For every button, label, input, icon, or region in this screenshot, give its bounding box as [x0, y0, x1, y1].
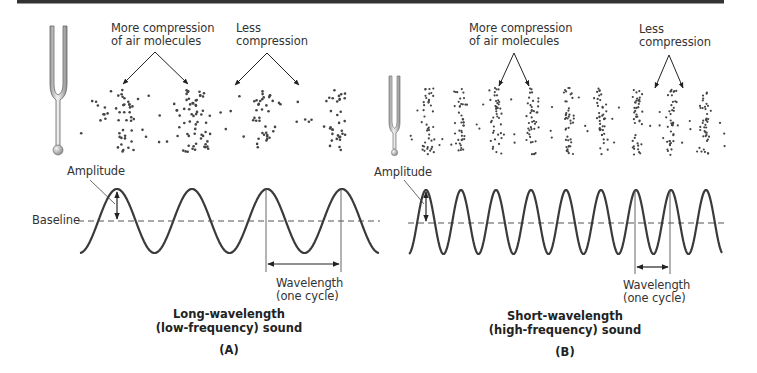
caption-b-line1: Short-wavelength	[485, 310, 645, 324]
panel-label-b: (B)	[545, 345, 585, 359]
top-rule	[17, 0, 724, 4]
wavelength-label-a-line2: (one cycle)	[276, 290, 343, 303]
amplitude-label-b: Amplitude	[374, 166, 432, 179]
amplitude-label-a: Amplitude	[67, 165, 125, 178]
baseline-label: Baseline	[32, 214, 80, 227]
sound-wave-figure: More compression of air molecules Less c…	[0, 0, 757, 373]
wavelength-label-b: Wavelength (one cycle)	[623, 279, 690, 305]
rarefaction-label-a-line2: compression	[236, 35, 308, 48]
caption-b-line2: (high-frequency) sound	[485, 324, 645, 338]
wavelength-label-b-line2: (one cycle)	[623, 292, 690, 305]
wavelength-label-a: Wavelength (one cycle)	[276, 277, 343, 303]
compression-label-b: More compression of air molecules	[469, 22, 572, 48]
tuning-fork-icon-b	[389, 76, 400, 156]
caption-b: Short-wavelength (high-frequency) sound	[485, 310, 645, 337]
air-molecules-a	[80, 89, 347, 153]
rarefaction-label-b-line2: compression	[639, 36, 711, 49]
amplitude-indicator-b	[404, 180, 426, 221]
compression-label-a-line2: of air molecules	[111, 35, 214, 48]
compression-label-b-line2: of air molecules	[469, 35, 572, 48]
tuning-fork-icon-a	[50, 26, 67, 155]
compression-label-a: More compression of air molecules	[111, 22, 214, 48]
air-molecules-b	[410, 87, 726, 156]
panel-label-a: (A)	[209, 343, 249, 357]
rarefaction-label-a: Less compression	[236, 22, 308, 48]
compression-arrows-b	[499, 53, 683, 88]
caption-a-line1: Long-wavelength	[149, 308, 309, 322]
rarefaction-label-b: Less compression	[639, 23, 711, 49]
caption-a: Long-wavelength (low-frequency) sound	[149, 308, 309, 335]
sine-wave-b	[409, 190, 722, 254]
compression-arrows-a	[123, 52, 299, 85]
caption-a-line2: (low-frequency) sound	[149, 322, 309, 336]
amplitude-indicator-a	[90, 180, 117, 219]
